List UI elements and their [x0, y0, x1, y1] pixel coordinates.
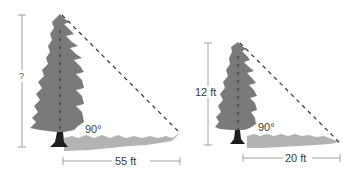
right-shadow-length-label: 20 ft	[285, 152, 306, 164]
right-tree-icon	[215, 42, 257, 130]
right-right-angle-label: 90°	[258, 121, 275, 133]
right-height-label: 12 ft	[195, 86, 216, 98]
right-figure	[204, 42, 340, 162]
left-shadow	[64, 133, 180, 151]
right-trunk	[230, 130, 245, 144]
left-tree-icon	[30, 14, 84, 132]
left-height-label: ?	[19, 70, 24, 82]
left-right-angle-label: 90°	[85, 123, 102, 135]
left-shadow-length-label: 55 ft	[115, 155, 136, 167]
right-shadow	[247, 134, 340, 148]
shadow-diagram: ? 90° 55 ft 12 ft 90° 20 ft	[0, 0, 359, 180]
left-figure	[18, 14, 180, 165]
